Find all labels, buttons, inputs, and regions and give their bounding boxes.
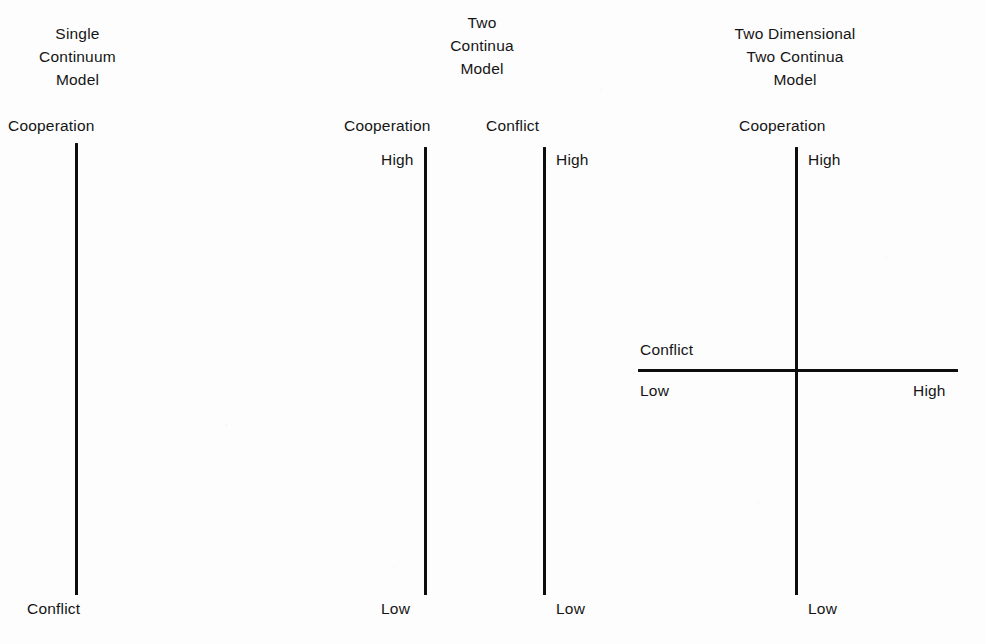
model-3-conflict-axis-left-label: Low xyxy=(640,379,669,402)
model-2-cooperation-axis-name: Cooperation xyxy=(344,114,431,137)
model-2-title-line-2: Continua xyxy=(387,34,577,57)
model-1-axis-top-label-cooperation: Cooperation xyxy=(8,114,95,137)
model-3-title-line-2: Two Continua xyxy=(680,45,910,68)
model-3-title-line-1: Two Dimensional xyxy=(680,22,910,45)
model-2-conflict-axis-top-label: High xyxy=(556,148,589,171)
model-2-title-line-1: Two xyxy=(387,11,577,34)
model-3-cooperation-axis-name: Cooperation xyxy=(739,114,826,137)
model-1-title-line-1: Single xyxy=(0,22,155,45)
model-1-axis-bottom-label-conflict: Conflict xyxy=(27,597,80,620)
model-3-conflict-axis-right-label: High xyxy=(913,379,946,402)
model-2-conflict-axis-bottom-label: Low xyxy=(556,597,585,620)
model-2-conflict-axis-name: Conflict xyxy=(486,114,539,137)
model-2-title: Two Continua Model xyxy=(387,11,577,80)
model-3-title: Two Dimensional Two Continua Model xyxy=(680,22,910,91)
model-1-title-line-2: Continuum xyxy=(0,45,155,68)
model-1-title-line-3: Model xyxy=(0,68,155,91)
model-2-cooperation-axis-line xyxy=(424,147,427,595)
model-3-cooperation-axis-bottom-label: Low xyxy=(808,597,837,620)
models-diagram: Single Continuum Model Cooperation Confl… xyxy=(0,0,985,644)
model-3-conflict-axis-line xyxy=(638,369,958,372)
model-2-conflict-axis-line xyxy=(543,147,546,595)
model-3-conflict-axis-name: Conflict xyxy=(640,338,693,361)
model-3-cooperation-axis-top-label: High xyxy=(808,148,841,171)
model-1-vertical-axis-line xyxy=(75,143,78,595)
model-1-title: Single Continuum Model xyxy=(0,22,155,91)
model-2-title-line-3: Model xyxy=(387,57,577,80)
model-3-title-line-3: Model xyxy=(680,68,910,91)
model-2-cooperation-axis-bottom-label: Low xyxy=(381,597,410,620)
model-2-cooperation-axis-top-label: High xyxy=(381,148,414,171)
